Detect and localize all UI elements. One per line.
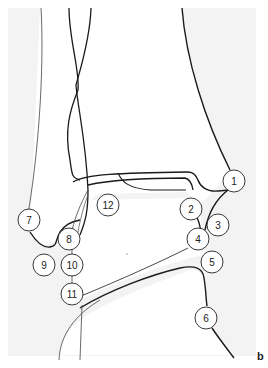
label-2: 2 [180,198,202,220]
label-1: 1 [223,170,245,192]
svg-text:5: 5 [209,257,215,268]
svg-text:7: 7 [26,215,32,226]
label-11: 11 [61,283,83,305]
label-5: 5 [201,251,223,273]
label-10: 10 [61,254,83,276]
svg-text:8: 8 [66,234,72,245]
svg-text:11: 11 [67,289,78,300]
svg-text:1: 1 [231,176,237,187]
svg-text:12: 12 [102,200,114,211]
label-4: 4 [187,228,209,250]
label-7: 7 [18,209,40,231]
speck [126,253,127,254]
svg-text:9: 9 [41,260,47,271]
label-8: 8 [58,228,80,250]
label-12: 12 [97,194,119,216]
label-3: 3 [207,214,229,236]
svg-text:3: 3 [215,220,221,231]
svg-text:4: 4 [195,234,201,245]
svg-text:6: 6 [203,313,209,324]
label-6: 6 [195,307,217,329]
panel-letter: b [257,350,264,362]
svg-text:10: 10 [66,260,78,271]
svg-text:2: 2 [188,204,194,215]
ankle-joint-diagram: 1 2 3 4 5 6 7 8 9 10 11 12 [0,0,268,368]
label-9: 9 [33,254,55,276]
